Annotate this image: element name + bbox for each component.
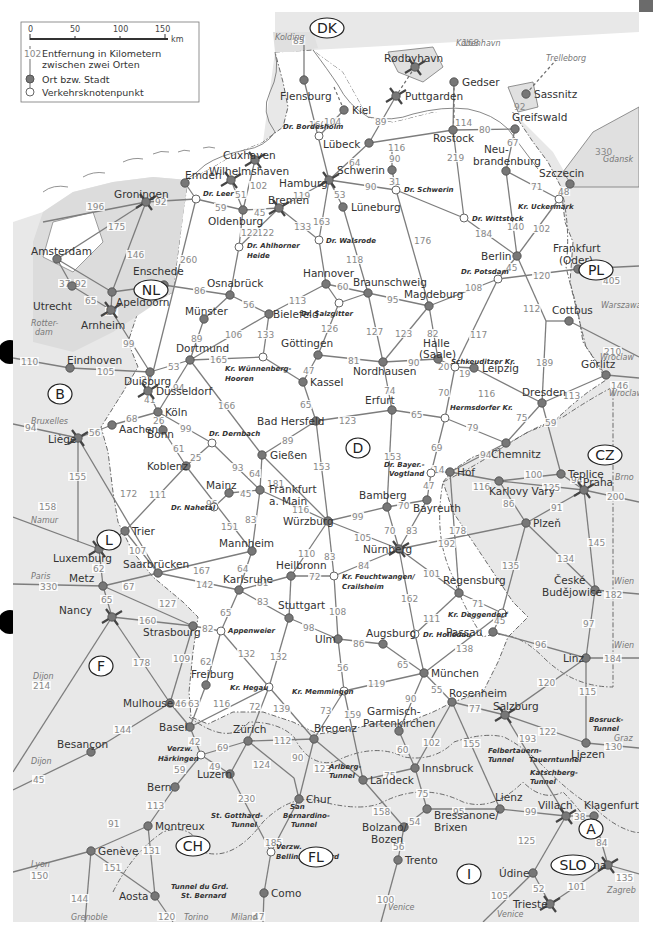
- city-label[interactable]: Bad Hersfeld: [257, 415, 325, 427]
- city-dot[interactable]: [154, 569, 162, 577]
- junction-label[interactable]: Heide: [247, 252, 270, 260]
- junction-label[interactable]: Dr. Walsrode: [326, 237, 376, 245]
- city-label[interactable]: Saarbrücken: [123, 558, 189, 570]
- junction-label[interactable]: Dr. Bordesholm: [283, 123, 343, 131]
- junction-label[interactable]: Dr. Holledau: [423, 631, 471, 639]
- city-label[interactable]: Aosta: [119, 890, 148, 902]
- city-label[interactable]: Nürnberg: [363, 543, 412, 555]
- city-dot[interactable]: [425, 302, 433, 310]
- city-label[interactable]: Neu-: [484, 143, 509, 155]
- city-dot[interactable]: [388, 166, 396, 174]
- city-label[interactable]: Klagenfurt: [584, 799, 639, 811]
- city-label[interactable]: Lüneburg: [351, 201, 401, 213]
- junction-dot[interactable]: [460, 214, 468, 222]
- city-label[interactable]: Rosenheim: [449, 687, 507, 699]
- city-dot[interactable]: [339, 203, 347, 211]
- city-dot[interactable]: [392, 92, 400, 100]
- city-dot[interactable]: [99, 582, 107, 590]
- junction-dot[interactable]: [208, 439, 216, 447]
- junction-dot[interactable]: [192, 195, 200, 203]
- city-label[interactable]: Bamberg: [359, 489, 407, 501]
- city-dot[interactable]: [256, 486, 264, 494]
- city-label[interactable]: Bressanone/: [434, 809, 499, 821]
- city-dot[interactable]: [287, 572, 295, 580]
- city-dot[interactable]: [364, 289, 372, 297]
- city-dot[interactable]: [258, 451, 266, 459]
- city-dot[interactable]: [265, 310, 273, 318]
- city-label[interactable]: Hof: [457, 466, 475, 478]
- city-label[interactable]: Besançon: [57, 738, 108, 750]
- city-dot[interactable]: [151, 892, 159, 900]
- city-label[interactable]: Linz: [563, 652, 584, 664]
- city-label[interactable]: Arnheim: [81, 319, 125, 331]
- junction-label[interactable]: Dr. Ahlhorner: [247, 242, 300, 250]
- junction-label[interactable]: Hooren: [225, 375, 254, 383]
- city-label[interactable]: Mulhouse: [123, 697, 173, 709]
- city-label[interactable]: Landeck: [370, 774, 415, 786]
- city-dot[interactable]: [144, 387, 152, 395]
- city-label[interactable]: Karlsruhe: [223, 573, 273, 585]
- city-label[interactable]: Lübeck: [323, 138, 361, 150]
- junction-label[interactable]: Härkingen: [158, 755, 199, 763]
- city-label[interactable]: Utrecht: [33, 300, 72, 312]
- junction-label[interactable]: Dr. Schwerin: [404, 186, 454, 194]
- city-label[interactable]: Hamburg: [279, 177, 328, 189]
- city-dot[interactable]: [448, 698, 456, 706]
- city-label[interactable]: Luxemburg: [53, 552, 112, 564]
- junction-label[interactable]: Appenweier: [227, 627, 276, 635]
- city-label[interactable]: Mainz: [206, 479, 237, 491]
- city-label[interactable]: Magdeburg: [404, 288, 463, 300]
- city-dot[interactable]: [299, 378, 307, 386]
- junction-label[interactable]: Verzw.: [276, 843, 302, 851]
- city-label[interactable]: Enschede: [133, 265, 184, 277]
- city-label[interactable]: Köln: [165, 406, 187, 418]
- junction-label[interactable]: Kr. Memmingen: [292, 688, 353, 696]
- city-dot[interactable]: [394, 856, 402, 864]
- city-label[interactable]: Lienz: [495, 791, 523, 803]
- junction-label[interactable]: Dr. Wittstock: [472, 215, 525, 223]
- city-label[interactable]: Amsterdam: [31, 245, 92, 257]
- junction-label[interactable]: Dr. Nahetal: [171, 504, 216, 512]
- city-label[interactable]: Bozen: [371, 833, 403, 845]
- junction-label[interactable]: Verzw.: [167, 745, 193, 753]
- city-label[interactable]: Emden: [185, 169, 222, 181]
- junction-label[interactable]: Vogtland: [389, 470, 425, 478]
- city-label[interactable]: Karlovy Vary: [489, 485, 555, 497]
- junction-dot[interactable]: [330, 572, 338, 580]
- city-label[interactable]: Trento: [404, 854, 438, 866]
- city-label[interactable]: Schwerin: [337, 164, 385, 176]
- city-label[interactable]: Berlin: [481, 250, 511, 262]
- city-label[interactable]: České: [554, 574, 585, 586]
- city-dot[interactable]: [513, 252, 521, 260]
- city-dot[interactable]: [154, 408, 162, 416]
- city-label[interactable]: Plzeň: [533, 517, 561, 529]
- city-dot[interactable]: [108, 613, 116, 621]
- city-dot[interactable]: [87, 847, 95, 855]
- city-label[interactable]: Innsbruck: [422, 762, 474, 774]
- city-dot[interactable]: [227, 176, 235, 184]
- city-dot[interactable]: [340, 106, 348, 114]
- city-label[interactable]: Freiburg: [191, 668, 234, 680]
- junction-label[interactable]: Kr. Hegau: [230, 684, 268, 692]
- junction-label[interactable]: Dr. Potsdam: [461, 268, 509, 276]
- city-label[interactable]: Düsseldorf: [156, 385, 212, 397]
- city-label[interactable]: Montreux: [155, 820, 205, 832]
- city-dot[interactable]: [502, 167, 510, 175]
- city-label[interactable]: Puttgarden: [405, 90, 463, 102]
- junction-dot[interactable]: [217, 627, 225, 635]
- city-label[interactable]: Sassnitz: [534, 88, 578, 100]
- city-label[interactable]: Hannover: [303, 267, 355, 279]
- city-label[interactable]: Dresden: [522, 386, 566, 398]
- city-label[interactable]: Aachen: [119, 423, 158, 435]
- city-label[interactable]: Trier: [131, 525, 156, 537]
- city-dot[interactable]: [446, 468, 454, 476]
- city-label[interactable]: Mannheim: [219, 537, 274, 549]
- city-dot[interactable]: [538, 399, 546, 407]
- city-label[interactable]: Bregenz: [314, 722, 358, 734]
- city-dot[interactable]: [379, 640, 387, 648]
- city-label[interactable]: Braunschweig: [353, 276, 427, 288]
- junction-dot[interactable]: [235, 243, 243, 251]
- city-label[interactable]: Rødbyhavn: [384, 52, 443, 64]
- city-dot[interactable]: [502, 439, 510, 447]
- city-label[interactable]: Szczecin: [539, 167, 584, 179]
